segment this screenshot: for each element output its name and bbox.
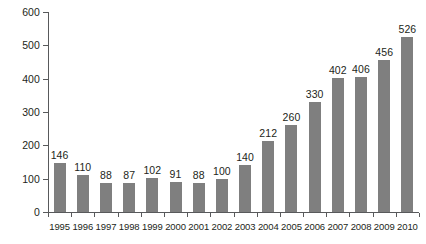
x-axis-tick-label: 2003 bbox=[234, 222, 257, 232]
bar bbox=[54, 163, 66, 212]
x-axis-tick bbox=[210, 213, 211, 217]
y-axis-tick-label: 0 bbox=[34, 207, 40, 218]
y-axis-tick-label: 200 bbox=[22, 140, 40, 151]
x-axis-tick-label: 2009 bbox=[373, 222, 396, 232]
bar-value-label: 406 bbox=[347, 64, 374, 75]
bar bbox=[378, 60, 390, 212]
x-axis-tick-label: 2004 bbox=[257, 222, 280, 232]
y-axis-tick bbox=[43, 45, 48, 46]
bar-value-label: 260 bbox=[278, 112, 305, 123]
y-axis-tick-label: 400 bbox=[22, 74, 40, 85]
x-axis-tick-label: 2010 bbox=[396, 222, 419, 232]
bar bbox=[123, 183, 135, 212]
x-axis-tick-label: 2006 bbox=[303, 222, 326, 232]
y-axis-tick-label: 500 bbox=[22, 40, 40, 51]
bar bbox=[332, 78, 344, 212]
x-axis-tick bbox=[257, 213, 258, 217]
x-axis-tick-label: 2007 bbox=[326, 222, 349, 232]
y-axis-tick-label: 300 bbox=[22, 107, 40, 118]
bar bbox=[170, 182, 182, 212]
bar bbox=[100, 183, 112, 212]
bar bbox=[285, 125, 297, 212]
x-axis-tick bbox=[118, 213, 119, 217]
x-axis-tick bbox=[187, 213, 188, 217]
bar-value-label: 526 bbox=[394, 24, 421, 35]
bar bbox=[401, 37, 413, 212]
x-axis-tick bbox=[71, 213, 72, 217]
bar-value-label: 212 bbox=[255, 128, 282, 139]
x-axis-tick-label: 2001 bbox=[187, 222, 210, 232]
x-axis-tick bbox=[349, 213, 350, 217]
y-axis-tick-label: 600 bbox=[22, 7, 40, 18]
bar bbox=[309, 102, 321, 212]
x-axis-tick bbox=[373, 213, 374, 217]
bar bbox=[146, 178, 158, 212]
bar bbox=[193, 183, 205, 212]
x-axis-tick bbox=[48, 213, 49, 217]
bar-value-label: 146 bbox=[46, 150, 73, 161]
x-axis-tick bbox=[141, 213, 142, 217]
bar bbox=[262, 141, 274, 212]
y-axis-tick bbox=[43, 112, 48, 113]
x-axis-tick-label: 1998 bbox=[118, 222, 141, 232]
y-axis-line bbox=[48, 12, 49, 213]
bar bbox=[239, 165, 251, 212]
bar-chart: 0100200300400500600 19951996199719981999… bbox=[0, 0, 426, 244]
x-axis-tick bbox=[164, 213, 165, 217]
y-axis-tick bbox=[43, 145, 48, 146]
y-axis-tick bbox=[43, 179, 48, 180]
x-axis-tick-label: 2005 bbox=[280, 222, 303, 232]
y-axis-tick bbox=[43, 12, 48, 13]
y-axis-tick bbox=[43, 79, 48, 80]
x-axis-tick-label: 2000 bbox=[164, 222, 187, 232]
x-axis-tick bbox=[280, 213, 281, 217]
x-axis-tick bbox=[94, 213, 95, 217]
x-axis-tick-label: 1999 bbox=[141, 222, 164, 232]
x-axis-tick-label: 1995 bbox=[48, 222, 71, 232]
x-axis-tick bbox=[234, 213, 235, 217]
bar-value-label: 100 bbox=[208, 166, 235, 177]
bar bbox=[77, 175, 89, 212]
x-axis-tick-label: 1996 bbox=[71, 222, 94, 232]
x-axis-tick bbox=[326, 213, 327, 217]
y-axis-tick-label: 100 bbox=[22, 174, 40, 185]
x-axis-tick bbox=[303, 213, 304, 217]
x-axis-tick-label: 1997 bbox=[94, 222, 117, 232]
x-axis-tick-label: 2002 bbox=[210, 222, 233, 232]
x-axis-tick bbox=[396, 213, 397, 217]
x-axis-tick-label: 2008 bbox=[349, 222, 372, 232]
bar bbox=[216, 179, 228, 212]
bar-value-label: 456 bbox=[371, 47, 398, 58]
x-axis-tick bbox=[419, 213, 420, 217]
bar bbox=[355, 77, 367, 212]
bar-value-label: 330 bbox=[301, 89, 328, 100]
bar-value-label: 140 bbox=[232, 152, 259, 163]
